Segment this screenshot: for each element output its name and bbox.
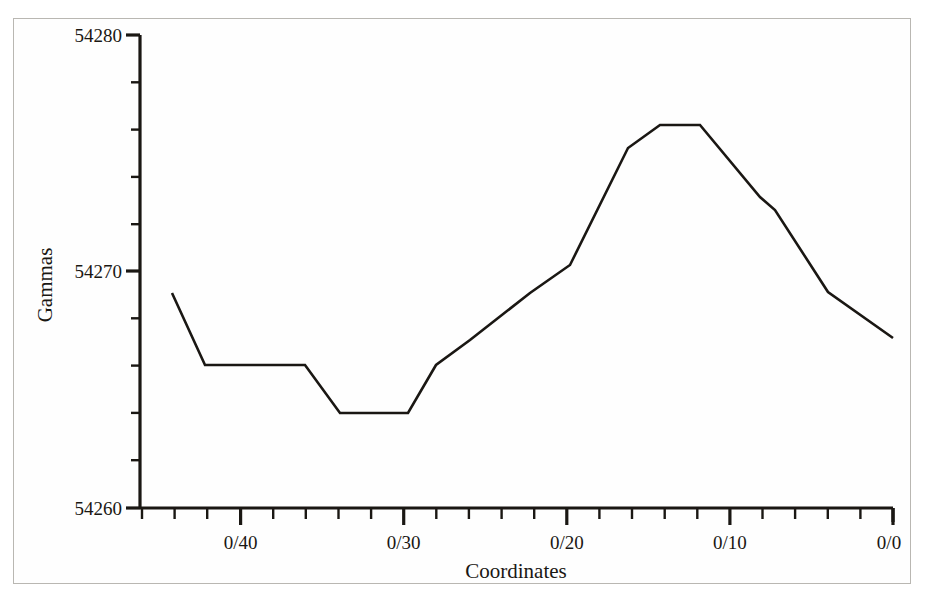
x-axis-title: Coordinates	[465, 559, 566, 583]
x-minor-ticks	[142, 508, 860, 519]
y-tick-label-54270: 54270	[75, 261, 123, 282]
y-tick-label-54260: 54260	[75, 498, 123, 519]
x-tick-label-0-0: 0/0	[877, 532, 901, 553]
y-axis-title: Gammas	[33, 248, 57, 323]
x-tick-label-0-30: 0/30	[387, 532, 421, 553]
line-chart: 54280 54270 54260 0/40 0/30 0/20 0/10 0/…	[0, 0, 933, 615]
y-major-ticks	[126, 35, 140, 508]
figure-container: 54280 54270 54260 0/40 0/30 0/20 0/10 0/…	[0, 0, 933, 615]
x-tick-label-0-10: 0/10	[713, 532, 747, 553]
data-series-line	[172, 125, 893, 413]
x-tick-label-0-20: 0/20	[550, 532, 584, 553]
x-tick-label-0-40: 0/40	[224, 532, 258, 553]
y-tick-label-54280: 54280	[75, 25, 123, 46]
